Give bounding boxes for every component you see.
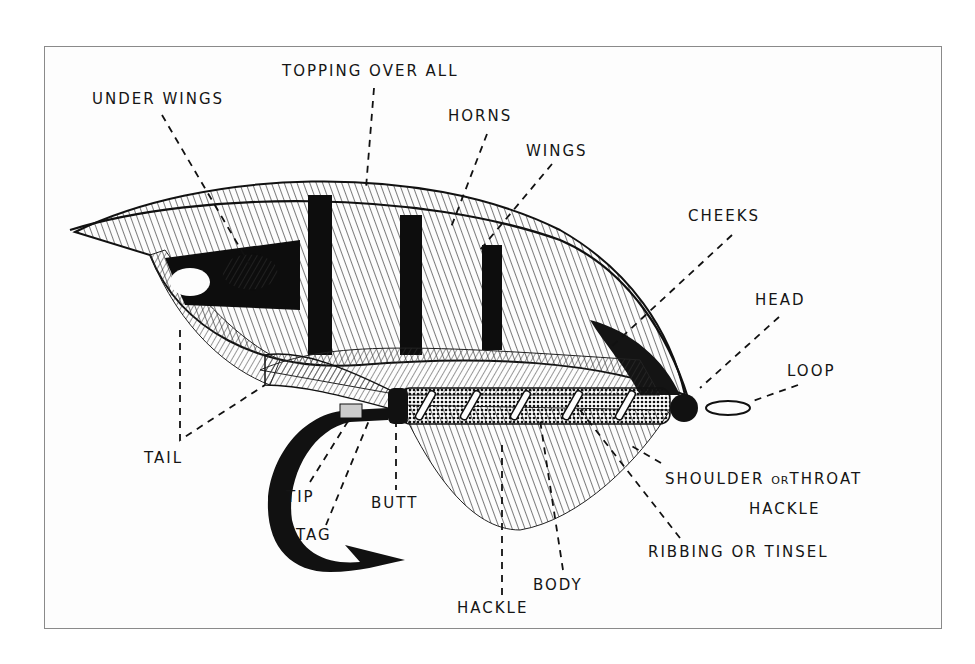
label-ribbing-or-tinsel: RIBBING OR TINSEL [648, 545, 829, 560]
tag-icon [340, 404, 362, 418]
loop-icon [706, 401, 750, 415]
label-shoulder-or-throat: SHOULDER ORTHROAT [665, 472, 862, 487]
label-shoulder-hackle: HACKLE [749, 502, 820, 517]
label-head: HEAD [755, 293, 806, 308]
label-cheeks: CHEEKS [688, 209, 760, 224]
label-ribbing-text: RIBBING [648, 543, 731, 561]
butt-icon [388, 388, 408, 424]
head-icon [670, 394, 698, 422]
label-tip: TIP [286, 490, 315, 505]
label-tinsel-text: TINSEL [758, 543, 829, 561]
label-horns: HORNS [448, 109, 512, 124]
label-throat-text: THROAT [789, 470, 862, 488]
label-or-text: OR [731, 543, 757, 561]
label-butt: BUTT [371, 496, 418, 511]
label-topping-over-all: TOPPING OVER ALL [282, 64, 459, 79]
label-tail: TAIL [144, 451, 183, 466]
label-under-wings: UNDER WINGS [92, 92, 224, 107]
label-tag: TAG [296, 528, 332, 543]
label-hackle: HACKLE [457, 601, 528, 616]
label-shoulder-text: SHOULDER [665, 470, 771, 488]
label-wings: WINGS [526, 144, 588, 159]
label-body: BODY [533, 578, 583, 593]
label-loop: LOOP [787, 364, 835, 379]
label-or-text: OR [771, 474, 789, 487]
